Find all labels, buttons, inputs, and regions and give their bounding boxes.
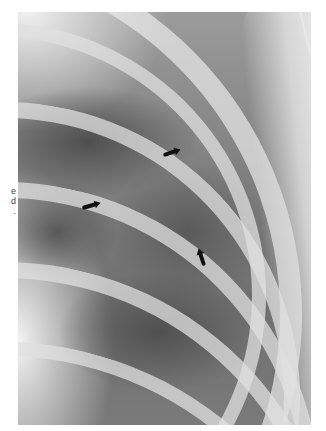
caption-line: d (0, 196, 16, 206)
caption-fragment: e d . (0, 186, 16, 216)
caption-line: e (0, 186, 16, 196)
radiograph-image (18, 12, 311, 425)
caption-line: . (0, 206, 16, 216)
